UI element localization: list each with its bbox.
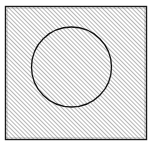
figure-canvas <box>0 0 153 147</box>
figure-container: Hatched square with inscribed circle out… <box>0 0 153 147</box>
square-hatch-fill <box>6 7 147 140</box>
square-hatch-fill-group <box>6 7 147 140</box>
